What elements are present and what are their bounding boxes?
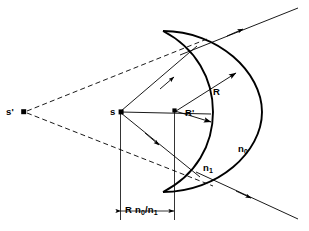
label-dimension-prefix: R n (125, 204, 141, 215)
incident-ray-group (121, 46, 211, 177)
refracted-ray-lower (196, 172, 298, 219)
incident-ray-upper (121, 46, 197, 111)
virtual-source-point (21, 109, 26, 114)
label-dimension-slash: /n (145, 204, 154, 215)
label-dimension-sub1: 1 (154, 209, 158, 216)
label-index-inner: n1 (203, 163, 213, 173)
label-index-inner-sub: 1 (209, 167, 213, 174)
label-radius-inner: R' (185, 108, 195, 118)
label-virtual-source: s' (6, 107, 14, 117)
arrow-refracted-lower (236, 191, 251, 198)
label-source: s (110, 107, 115, 117)
label-radius-outer: R (213, 87, 220, 97)
source-point (119, 109, 124, 114)
refracted-ray-upper (180, 8, 298, 55)
incident-ray-lower (121, 113, 200, 177)
arrow-incident-lower (145, 133, 159, 145)
label-dimension: R n0/n1 (125, 205, 158, 215)
label-index-outer: n0 (238, 144, 248, 154)
arrow-incident-upper (160, 77, 174, 89)
label-index-outer-sub: 0 (244, 148, 248, 155)
virtual-ray-lower (27, 113, 213, 186)
arrow-refracted-upper (227, 29, 243, 36)
radius-line-inner (121, 112, 211, 114)
label-dimension-sub0: 0 (141, 209, 145, 216)
diagram-canvas (0, 0, 309, 231)
virtual-ray-upper (27, 39, 207, 111)
optics-ray-diagram: s' s R R' n0 n1 R n0/n1 (0, 0, 309, 231)
